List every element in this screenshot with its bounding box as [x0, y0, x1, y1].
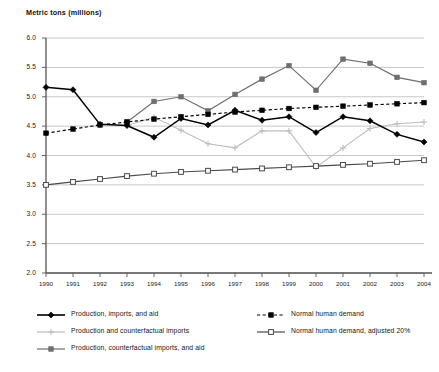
y-tick-label: 3.5	[14, 181, 36, 188]
legend-item[interactable]: Production and counterfactual imports	[36, 323, 189, 337]
legend-label: Production, imports, and aid	[71, 310, 158, 317]
legend-item[interactable]: Production, counterfactual imports, and …	[36, 340, 205, 354]
legend-marker-icon	[256, 307, 286, 319]
legend-item[interactable]: Normal human demand	[256, 306, 364, 320]
y-tick-label: 6.0	[14, 34, 36, 41]
y-tick-label: 5.5	[14, 63, 36, 70]
y-tick-label: 4.0	[14, 152, 36, 159]
x-tick-label: 2003	[384, 280, 410, 287]
plot-area: 2.02.53.03.54.04.55.05.56.0 199019911992…	[0, 0, 439, 300]
legend-marker-icon	[256, 324, 286, 336]
x-tick-label: 1999	[276, 280, 302, 287]
legend-label: Production and counterfactual imports	[71, 327, 189, 334]
series-4	[44, 158, 427, 187]
series-1	[124, 114, 427, 170]
y-tick-label: 3.0	[14, 210, 36, 217]
legend-label: Normal human demand, adjusted 20%	[291, 327, 410, 334]
legend-item[interactable]: Production, imports, and aid	[36, 306, 158, 320]
x-tick-label: 1996	[195, 280, 221, 287]
legend-marker-icon	[36, 307, 66, 319]
legend-marker-icon	[36, 341, 66, 353]
x-tick-label: 2000	[303, 280, 329, 287]
legend-label: Production, counterfactual imports, and …	[71, 344, 205, 351]
x-tick-label: 1997	[222, 280, 248, 287]
gridlines	[42, 38, 424, 273]
axis-lines	[46, 38, 432, 277]
x-tick-label: 1998	[249, 280, 275, 287]
chart-svg	[0, 0, 439, 300]
legend-marker-icon	[36, 324, 66, 336]
legend-label: Normal human demand	[291, 310, 364, 317]
x-tick-label: 2001	[330, 280, 356, 287]
legend-item[interactable]: Normal human demand, adjusted 20%	[256, 323, 410, 337]
y-tick-label: 2.5	[14, 240, 36, 247]
y-tick-label: 2.0	[14, 269, 36, 276]
x-tick-label: 2002	[357, 280, 383, 287]
series-3	[44, 100, 427, 135]
x-tick-label: 1992	[87, 280, 113, 287]
x-tick-label: 1993	[114, 280, 140, 287]
chart-figure: Metric tons (millions) 2.02.53.03.54.04.…	[0, 0, 439, 372]
y-tick-label: 4.5	[14, 122, 36, 129]
chart-legend: Production, imports, and aidProduction a…	[0, 302, 439, 372]
x-tick-label: 2004	[411, 280, 437, 287]
x-tick-label: 1995	[168, 280, 194, 287]
x-tick-label: 1991	[60, 280, 86, 287]
x-tick-label: 1990	[33, 280, 59, 287]
y-tick-label: 5.0	[14, 93, 36, 100]
series-2	[125, 57, 427, 124]
x-tick-label: 1994	[141, 280, 167, 287]
